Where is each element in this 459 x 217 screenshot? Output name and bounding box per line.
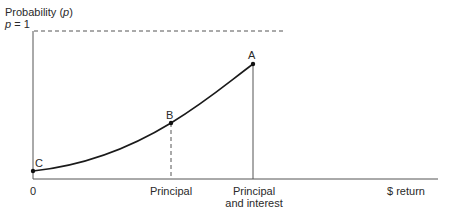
point-b-marker <box>169 121 173 125</box>
principal-label: Principal <box>150 185 192 197</box>
origin-label: 0 <box>30 185 36 197</box>
x-axis-title: $ return <box>387 185 425 197</box>
principal-interest-label: Principal and interest <box>225 185 282 209</box>
probability-curve <box>33 64 253 171</box>
point-b-label: B <box>166 109 173 121</box>
p1-rest: = 1 <box>11 18 30 30</box>
y-axis-close: ) <box>69 6 73 18</box>
point-c-label: C <box>35 157 43 169</box>
principal-interest-line1: Principal <box>225 185 282 197</box>
point-c-marker <box>31 169 35 173</box>
y-axis-title: Probability (p) <box>5 6 73 18</box>
principal-interest-line2: and interest <box>225 197 282 209</box>
p-equals-one-label: p = 1 <box>5 18 30 30</box>
point-a-label: A <box>248 49 255 61</box>
point-a-marker <box>251 62 255 66</box>
y-axis-title-text: Probability ( <box>5 6 63 18</box>
